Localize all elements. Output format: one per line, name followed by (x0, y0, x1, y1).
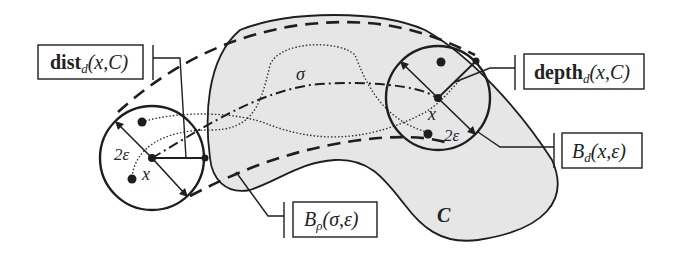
left-point-label: x (141, 164, 150, 184)
dist-callout-label: distd(x,C) (50, 51, 129, 76)
left-sample-point-2 (128, 175, 137, 184)
left-sample-point-1 (138, 118, 147, 127)
region-c (208, 15, 558, 241)
region-c-label: C (437, 204, 451, 226)
ball-rho-callout-label: Bρ(σ,ε) (304, 208, 359, 233)
left-radius-arrow-down (152, 158, 185, 194)
right-point-label: x (427, 104, 436, 124)
left-boundary-point (202, 155, 209, 162)
ball-rho-args: (σ,ε) (322, 208, 358, 231)
path-sigma-label: σ (296, 64, 306, 84)
right-radius-label: 2ε (444, 126, 460, 145)
right-boundary-point (473, 58, 480, 65)
ball-d-callout-label: Bd(x,ε) (572, 140, 626, 165)
diagram: 2ε x x 2ε σ C distd(x,C) depthd(x,C) Bd(… (0, 0, 682, 255)
right-sample-point-1 (437, 58, 446, 67)
ball-rho-sub: ρ (315, 218, 322, 233)
dist-fn: dist (50, 51, 81, 73)
depth-fn: depth (534, 61, 583, 84)
dist-args: (x,C) (88, 51, 129, 74)
ball-d-main: B (572, 140, 584, 162)
left-center-point (148, 154, 156, 162)
right-center-point (434, 94, 442, 102)
depth-callout-label: depthd(x,C) (534, 61, 630, 86)
right-sample-point-2 (424, 130, 433, 139)
ball-rho-main: B (304, 208, 316, 230)
ball-d-args: (x,ε) (591, 140, 626, 163)
depth-args: (x,C) (589, 61, 630, 84)
left-radius-label: 2ε (114, 145, 130, 164)
